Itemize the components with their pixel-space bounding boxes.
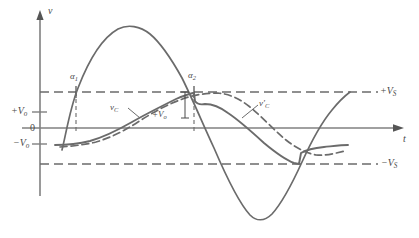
tick-label-zero: 0 — [30, 123, 35, 133]
threshold-label-minus-vs-sub: S — [394, 162, 398, 170]
tick-label-plus-vo-sub: o — [24, 110, 28, 118]
curve-label-vc: vC — [110, 103, 118, 113]
y-axis-label: v — [48, 6, 52, 16]
y-axis-arrow — [36, 10, 43, 20]
curve-label-vc-prime: v′C — [259, 99, 269, 109]
x-axis-label: t — [403, 134, 406, 144]
marker-label-alpha-2-sub: 2 — [193, 74, 196, 81]
axis-group — [22, 10, 404, 196]
marker-label-alpha-2: α2 — [188, 71, 196, 81]
threshold-label-minus-vs: −VS — [381, 158, 397, 170]
threshold-label-plus-vs: +VS — [380, 86, 396, 98]
leader-vc — [128, 108, 140, 118]
tick-label-minus-vo: −Vo — [13, 138, 29, 150]
tick-label-plus-vo: +Vo — [11, 106, 27, 118]
x-axis-arrow — [393, 124, 404, 132]
curve-label-vc-prime-sub: C — [265, 102, 269, 109]
marker-label-alpha-1: α1 — [70, 72, 78, 82]
tick-label-minus-vo-text: −V — [13, 137, 26, 148]
curve-label-vc-sub: C — [114, 106, 118, 113]
step-label-plus-vo-sub: o — [164, 113, 167, 120]
step-label-plus-vo: +Vo — [152, 110, 167, 120]
tick-label-minus-vo-sub: o — [26, 142, 30, 150]
marker-label-alpha-1-sub: 1 — [75, 75, 78, 82]
threshold-label-minus-vs-text: −V — [381, 157, 394, 168]
threshold-label-plus-vs-sub: S — [393, 90, 397, 98]
firing-angle-droplines — [76, 86, 194, 133]
threshold-label-plus-vs-text: +V — [380, 85, 393, 96]
tick-label-plus-vo-text: +V — [11, 105, 24, 116]
waveform-figure: v t +Vo 0 −Vo +VS −VS α1 α2 vC v′C +Vo — [0, 0, 419, 238]
supply-sine-curve — [62, 26, 350, 219]
plot-canvas — [0, 0, 419, 238]
step-label-plus-vo-text: +V — [152, 109, 164, 119]
